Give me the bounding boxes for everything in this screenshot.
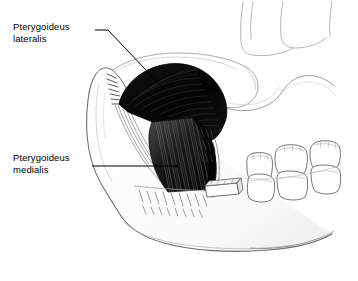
- label-lateralis-line2: lateralis: [13, 33, 70, 45]
- label-pterygoideus-medialis: Pterygoideus medialis: [13, 152, 70, 175]
- skull-outline: [241, 2, 332, 56]
- label-medialis-line2: medialis: [13, 164, 70, 176]
- label-pterygoideus-lateralis: Pterygoideus lateralis: [13, 21, 70, 44]
- anatomical-figure: Pterygoideus lateralis Pterygoideus medi…: [0, 0, 358, 281]
- sectioned-alveolar-block: [205, 178, 243, 197]
- label-lateralis-line1: Pterygoideus: [13, 21, 70, 33]
- label-medialis-line1: Pterygoideus: [13, 152, 70, 164]
